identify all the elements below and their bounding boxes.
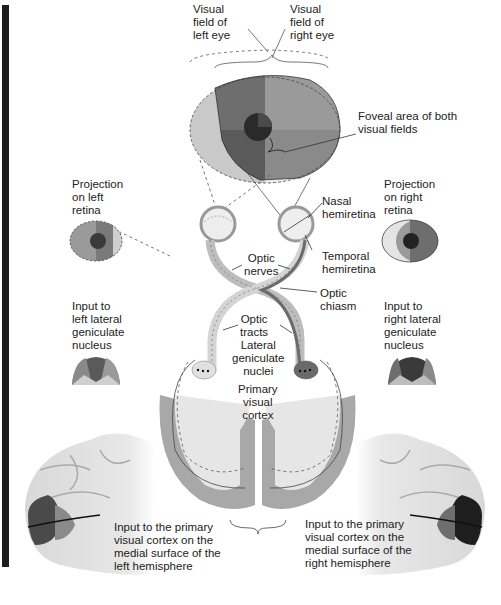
label-optic-chiasm: Optic chiasm [320,287,356,313]
label-foveal-area: Foveal area of both visual fields [358,110,457,136]
label-input-left-lgn: Input to left lateral geniculate nucleus [72,300,124,352]
label-projection-left-retina: Projection on left retina [72,178,123,217]
eyes [201,207,313,241]
label-lateral-geniculate-nuclei: Lateral geniculate nuclei [232,339,284,378]
label-optic-tracts: Optic tracts [240,313,268,339]
right-lgn-input [388,357,436,385]
left-retina-projection [70,220,128,262]
label-input-right-lgn: Input to right lateral geniculate nucleu… [384,300,441,352]
label-input-cortex-right: Input to the primary visual cortex on th… [305,518,412,570]
label-visual-field-left: Visual field of left eye [193,3,230,42]
visual-field-overlap [190,70,356,190]
label-nasal-hemiretina: Nasal hemiretina [322,195,376,221]
label-optic-nerves: Optic nerves [244,252,279,278]
label-temporal-hemiretina: Temporal hemiretina [322,250,376,276]
left-lgn-input [72,357,120,385]
right-retina-projection [382,220,440,262]
label-input-cortex-left: Input to the primary visual cortex on th… [114,521,221,573]
label-projection-right-retina: Projection on right retina [384,178,435,217]
label-primary-visual-cortex: Primary visual cortex [238,383,278,422]
label-visual-field-right: Visual field of right eye [290,3,334,42]
